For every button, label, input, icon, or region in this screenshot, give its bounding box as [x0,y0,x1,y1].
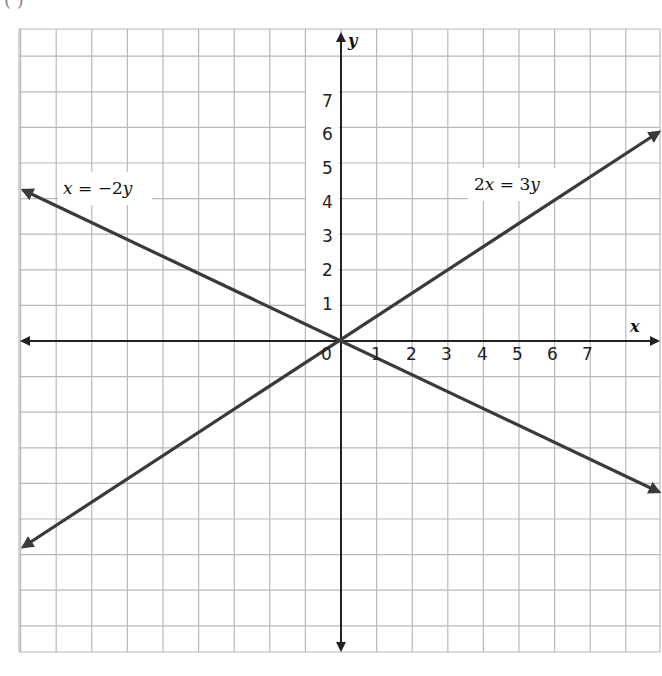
line2-label-eq: = 3 [494,174,530,194]
x-tick-5: 5 [512,344,523,364]
line2-label-lhs: x [485,174,495,194]
line1-label: x = −2y [63,178,133,198]
x-tick-4: 4 [477,344,488,364]
y-axis-label: y [347,31,359,50]
y-tick-7: 7 [322,91,333,111]
x-axis-label: x [629,317,640,336]
x-tick-1: 1 [371,344,382,364]
line2-label-rhs: y [529,174,540,194]
line1-label-lhs: x [63,178,73,198]
y-tick-6: 6 [322,124,333,144]
line2-label-pre: 2 [474,174,485,194]
x-tick-2: 2 [406,344,417,364]
line1-label-eq: = −2 [73,178,123,198]
y-tick-5: 5 [322,158,333,178]
line1-label-rhs: y [122,178,133,198]
x-tick-7: 7 [582,344,593,364]
y-tick-4: 4 [322,192,333,212]
x-tick-6: 6 [547,344,558,364]
y-tick-1: 1 [322,294,333,314]
y-tick-3: 3 [322,226,333,246]
x-tick-3: 3 [441,344,452,364]
coordinate-plane: ( ) y x 7 6 5 4 3 2 1 0 1 2 3 4 5 6 7 x … [0,0,662,676]
origin-label: 0 [321,344,332,364]
y-tick-2: 2 [322,260,333,280]
line2-label: 2x = 3y [474,174,540,194]
figure-label: ( ) [4,0,24,10]
